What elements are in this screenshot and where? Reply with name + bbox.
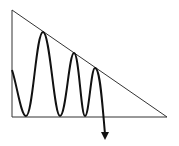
arrow-down-icon <box>101 132 109 140</box>
descending-triangle-diagram <box>0 0 179 146</box>
price-path <box>12 32 105 134</box>
